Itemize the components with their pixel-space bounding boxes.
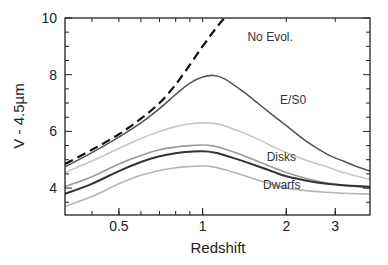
annotation-e-s0: E/S0 <box>280 93 306 107</box>
chart-svg: 0.512346810 Redshift V - 4.5µm No Evol.E… <box>0 0 388 265</box>
tick-labels: 0.512346810 <box>41 10 339 234</box>
y-tick-label: 8 <box>49 67 57 83</box>
annotation-no-evol: No Evol. <box>247 30 292 44</box>
annotation-disks: Disks <box>267 150 296 164</box>
annotation-dwarfs: Dwarfs <box>263 178 300 192</box>
series-line-2 <box>65 123 370 180</box>
ticks-layer <box>65 18 370 215</box>
x-tick-label: 3 <box>331 218 339 234</box>
y-tick-label: 6 <box>49 123 57 139</box>
x-axis-title: Redshift <box>190 239 246 256</box>
x-tick-label: 2 <box>282 218 290 234</box>
x-tick-label: 1 <box>199 218 207 234</box>
series-layer <box>65 6 370 207</box>
series-line-0 <box>65 6 239 164</box>
y-tick-label: 10 <box>41 10 57 26</box>
series-line-5 <box>65 166 370 207</box>
plot-frame <box>65 18 370 215</box>
x-tick-label: 0.5 <box>109 218 129 234</box>
y-tick-label: 4 <box>49 180 57 196</box>
y-axis-title: V - 4.5µm <box>10 83 27 148</box>
series-annotations: No Evol.E/S0DisksDwarfs <box>247 30 306 193</box>
